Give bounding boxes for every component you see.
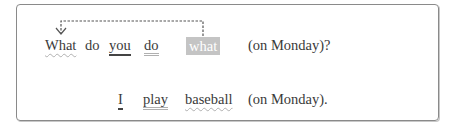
- word-i-subject: I: [118, 91, 123, 110]
- word-what-gap: what: [186, 37, 220, 55]
- word-do-aux: do: [85, 37, 100, 53]
- phrase-on-monday: (on Monday).: [248, 91, 328, 107]
- movement-arrow-icon: [0, 0, 456, 137]
- word-play-verb: play: [143, 91, 168, 110]
- phrase-on-monday-q: (on Monday)?: [248, 37, 331, 53]
- word-what-wh: What: [45, 37, 76, 53]
- word-do-verb: do: [144, 37, 159, 56]
- word-you-subject: you: [109, 37, 131, 56]
- word-baseball-object: baseball: [185, 91, 233, 107]
